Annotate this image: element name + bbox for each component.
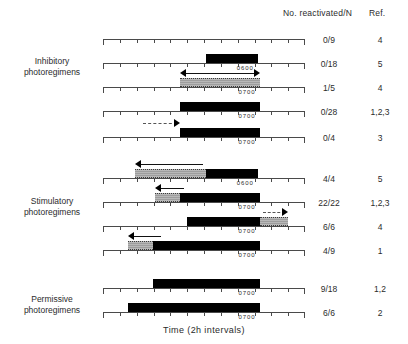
axis-tick	[271, 312, 272, 316]
axis-tick	[271, 63, 272, 67]
cell-reactivated: 4/9	[300, 246, 358, 256]
axis-tick	[170, 63, 171, 67]
axis-tick	[170, 87, 171, 91]
axis-tick	[170, 111, 171, 115]
bar-segment-shaded	[128, 241, 153, 250]
axis-tick	[137, 87, 138, 91]
timeline-row: 07009/181,2	[0, 271, 408, 297]
arrow-shaft	[158, 188, 184, 189]
axis-tick	[221, 312, 222, 316]
axis-tick	[103, 312, 104, 318]
axis-tick	[120, 178, 121, 182]
timeline-row: 07000/43	[0, 120, 408, 146]
cell-reactivated: 4/4	[300, 174, 358, 184]
axis-tick	[187, 63, 188, 67]
arrow-head-right-icon	[254, 69, 260, 77]
axis-tick	[221, 226, 222, 230]
axis-tick	[204, 178, 205, 182]
arrow-shaft	[131, 236, 160, 237]
axis-tick	[154, 63, 155, 67]
arrow-shaft	[143, 123, 177, 124]
axis-tick	[170, 202, 171, 206]
bar-segment-dark	[206, 169, 258, 178]
cell-ref: 4	[358, 83, 402, 93]
axis-tick	[120, 250, 121, 254]
axis-tick	[271, 226, 272, 230]
arrow-shaft	[138, 164, 203, 165]
axis-tick	[137, 63, 138, 67]
cell-reactivated: 1/5	[300, 83, 358, 93]
axis-tick	[288, 111, 289, 115]
axis-tick	[288, 87, 289, 91]
timeline-row: 06004/45	[0, 161, 408, 187]
time-axis	[103, 312, 305, 321]
column-header-reactivated: No. reactivated/N	[283, 8, 352, 18]
axis-tick	[204, 87, 205, 91]
axis-tick	[170, 312, 171, 316]
axis-tick	[271, 39, 272, 43]
axis-tick	[288, 178, 289, 182]
axis-tick	[204, 226, 205, 230]
axis-tick	[221, 250, 222, 254]
axis-tick	[154, 288, 155, 292]
cell-reactivated: 6/6	[300, 308, 358, 318]
axis-tick	[221, 87, 222, 91]
axis-tick	[187, 137, 188, 141]
axis-tick	[288, 226, 289, 230]
axis-tick	[204, 63, 205, 67]
shift-arrow	[140, 119, 180, 128]
time-axis	[103, 111, 305, 120]
axis-tick	[137, 312, 138, 316]
axis-tick	[271, 137, 272, 141]
cell-ref: 3	[358, 133, 402, 143]
bar-segment-dark	[206, 54, 258, 63]
axis-tick	[204, 288, 205, 292]
axis-tick	[271, 178, 272, 182]
axis-tick	[204, 111, 205, 115]
axis-tick	[204, 39, 205, 43]
axis-tick	[204, 250, 205, 254]
arrow-head-right-icon	[174, 119, 180, 127]
axis-tick	[154, 137, 155, 141]
axis-tick	[103, 39, 104, 45]
axis-tick	[103, 288, 104, 294]
shift-arrow	[135, 160, 206, 169]
axis-tick	[221, 39, 222, 43]
timeline-row: 07001/54	[0, 70, 408, 96]
bar-time-label: 0700	[239, 252, 256, 258]
axis-tick	[103, 202, 104, 208]
time-axis	[103, 137, 305, 146]
axis-tick	[170, 39, 171, 43]
axis-tick	[271, 111, 272, 115]
axis-tick	[170, 137, 171, 141]
axis-tick	[103, 137, 104, 143]
timeline-row: 07006/64	[0, 209, 408, 235]
axis-tick	[187, 87, 188, 91]
axis-tick	[187, 288, 188, 292]
axis-tick	[103, 111, 104, 117]
axis-tick	[221, 111, 222, 115]
shift-arrow	[180, 69, 259, 78]
timeline-row: 07000/281,2,3	[0, 94, 408, 120]
axis-tick	[120, 111, 121, 115]
axis-tick	[204, 202, 205, 206]
bar-time-label: 0700	[239, 314, 256, 320]
axis-tick	[221, 63, 222, 67]
bar-segment-shaded	[180, 78, 259, 87]
bar-segment-dark	[187, 217, 259, 226]
axis-tick	[271, 87, 272, 91]
bar-segment-dark	[180, 128, 259, 137]
axis-tick	[288, 250, 289, 254]
bar-segment-dark	[153, 279, 259, 288]
axis-tick	[154, 178, 155, 182]
axis-tick	[154, 87, 155, 91]
photoregimen-figure: No. reactivated/N Ref. Inhibitory photor…	[0, 0, 408, 344]
axis-tick	[154, 202, 155, 206]
axis-tick	[255, 39, 256, 43]
axis-tick	[288, 39, 289, 43]
axis-tick	[170, 226, 171, 230]
cell-reactivated: 0/18	[300, 59, 358, 69]
axis-tick	[103, 226, 104, 232]
shift-arrow	[155, 184, 187, 193]
cell-ref: 4	[358, 222, 402, 232]
